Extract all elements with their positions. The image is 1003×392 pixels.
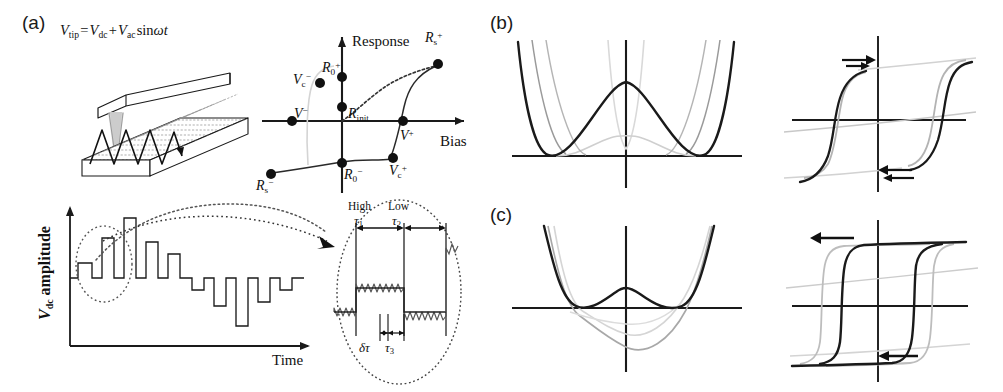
panel-c-energy-plot xyxy=(500,212,750,384)
panel-b-energy-plot xyxy=(500,26,750,194)
label-Vcplus: Vc+ xyxy=(389,163,407,180)
panel-c-pr-plot xyxy=(770,208,1000,388)
panel-b: (b) E V xyxy=(480,0,1003,196)
c-pr-upper-left-arrow xyxy=(810,232,854,244)
point-Vcplus xyxy=(388,153,398,163)
waveform-y-axis-label: Vdc amplitude xyxy=(36,226,55,320)
b-pr-gray-branch-down xyxy=(908,60,966,166)
panel-b-pr-plot xyxy=(770,20,1000,196)
c-energy-light-well xyxy=(554,226,710,335)
inset-deltatau-label: δτ xyxy=(359,340,370,356)
label-Vplus: V+ xyxy=(400,128,414,144)
b-pr-bold-branch-up xyxy=(800,71,866,182)
b-pr-light-mid-line xyxy=(784,112,976,132)
inset-low-label: Low xyxy=(388,200,409,212)
label-bias-axis: Bias xyxy=(440,133,467,150)
panel-a: (a) Vtip = Vdc + Vac sinωt xyxy=(0,0,480,392)
b-energy-mid-right2 xyxy=(666,40,706,155)
point-Vplus xyxy=(398,116,408,126)
zoom-callout-arrow xyxy=(95,205,355,265)
waveform-x-axis-label: Time xyxy=(272,352,303,369)
label-Vminus: V− xyxy=(294,106,308,122)
b-pr-upper-left-arrow xyxy=(842,55,876,70)
label-Rsplus: Rs+ xyxy=(425,30,442,47)
tip-voltage-equation: Vtip = Vdc + Vac sinωt xyxy=(60,22,168,40)
point-Rsplus xyxy=(433,59,443,69)
point-Vcminus xyxy=(315,78,325,88)
label-Vcminus: Vc− xyxy=(293,72,311,89)
point-Rinit xyxy=(337,102,347,112)
inset-tau1-label: τ1 xyxy=(354,213,363,229)
panel-c: (c) E V xyxy=(480,196,1003,392)
label-Rinit: Rinit xyxy=(348,106,369,123)
inset-tau2-label: τ2 xyxy=(392,213,401,229)
c-pr-light-mid-line xyxy=(786,268,978,288)
c-pr-lower-right-arrow xyxy=(878,351,918,361)
b-pr-lower-right-arrow xyxy=(878,165,914,182)
label-Rsminus: Rs− xyxy=(256,178,273,195)
c-energy-bold-curve xyxy=(544,226,714,308)
inset-pulse-train xyxy=(334,284,446,320)
label-R0minus: R0− xyxy=(344,167,362,184)
figure-root: (a) Vtip = Vdc + Vac sinωt xyxy=(0,0,1003,392)
label-R0plus: R0+ xyxy=(322,60,340,77)
label-response-axis: Response xyxy=(352,33,410,50)
afm-schematic xyxy=(30,40,250,190)
inset-high-label: High xyxy=(348,200,371,212)
b-energy-mid-left2 xyxy=(546,40,586,155)
inset-tau3-label: τ3 xyxy=(385,340,394,356)
panel-a-label: (a) xyxy=(22,12,45,34)
